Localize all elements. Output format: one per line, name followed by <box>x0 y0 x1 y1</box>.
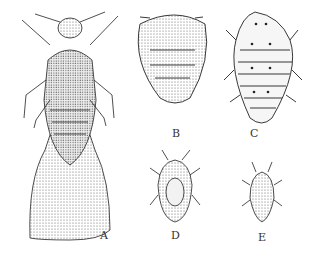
specimen-b <box>138 15 206 103</box>
panel-label-a: A <box>100 229 108 242</box>
specimen-d <box>150 150 200 222</box>
specimen-e <box>242 162 282 222</box>
panel-label-d: D <box>171 229 180 242</box>
insect-illustration: A B C D E <box>0 0 317 254</box>
panel-label-e: E <box>258 231 266 244</box>
illustration-drawing <box>0 0 317 254</box>
specimen-a <box>22 12 118 240</box>
panel-label-b: B <box>172 127 180 140</box>
specimen-c <box>224 12 302 123</box>
panel-label-c: C <box>250 127 258 140</box>
